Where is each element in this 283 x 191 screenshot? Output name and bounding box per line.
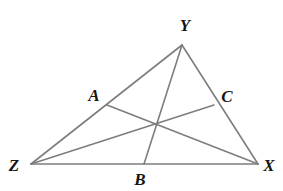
point-label-B: B [134, 171, 145, 188]
median-ZC-line [31, 105, 214, 164]
vertex-label-Z: Z [9, 157, 19, 174]
median-YB-line [144, 45, 182, 164]
side-YX-line [182, 45, 258, 164]
triangle-diagram [0, 0, 283, 191]
median-XA-line [107, 105, 258, 164]
vertex-label-Y: Y [180, 17, 190, 34]
vertex-label-X: X [263, 157, 274, 174]
point-label-C: C [221, 88, 232, 105]
point-label-A: A [88, 87, 99, 104]
geometry-figure: Y Z X A B C [0, 0, 283, 191]
